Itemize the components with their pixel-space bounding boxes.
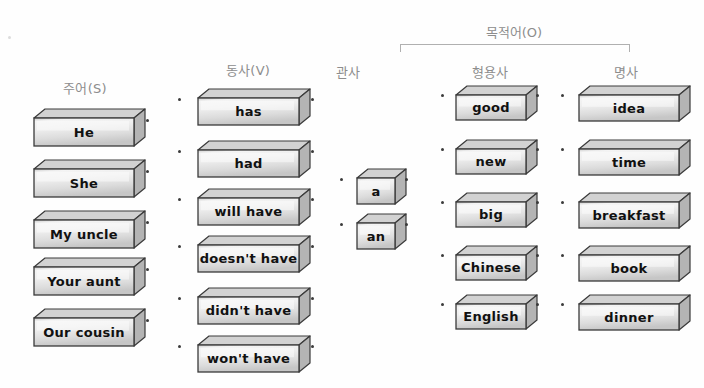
word-block-noun[interactable]: breakfast <box>578 192 689 227</box>
word-block-noun[interactable]: idea <box>578 85 689 120</box>
word-block-noun[interactable]: book <box>578 245 689 280</box>
word-block-noun[interactable]: dinner <box>578 294 689 329</box>
connector-dot-left-noun[interactable] <box>561 94 564 97</box>
word-block-noun[interactable]: time <box>578 139 689 174</box>
connector-dot-left-noun[interactable] <box>561 254 564 257</box>
worksheet-canvas: 목적어(O) 주어(S)HeSheMy uncleYour auntOur co… <box>0 0 704 388</box>
connector-dot-left-noun[interactable] <box>561 303 564 306</box>
column-header-noun: 명사 <box>566 62 686 81</box>
stray-mark <box>8 36 11 39</box>
connector-dot-left-noun[interactable] <box>561 148 564 151</box>
connector-dot-left-noun[interactable] <box>561 201 564 204</box>
column-noun: 명사ideatimebreakfastbookdinner <box>0 0 704 388</box>
